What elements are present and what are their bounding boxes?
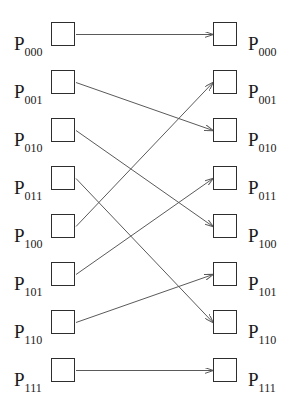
label-prefix: P xyxy=(14,81,25,102)
left-node-label-101: P101 xyxy=(14,274,43,293)
label-prefix: P xyxy=(248,33,259,54)
left-node-box-001 xyxy=(51,70,75,94)
label-subscript: 101 xyxy=(259,285,277,299)
right-node-box-100 xyxy=(213,214,237,238)
right-node-label-000: P000 xyxy=(248,34,277,53)
label-prefix: P xyxy=(248,225,259,246)
edge-010-to-100 xyxy=(76,131,213,227)
label-prefix: P xyxy=(248,81,259,102)
right-node-label-110: P110 xyxy=(248,322,276,341)
left-node-box-100 xyxy=(51,214,75,238)
label-subscript: 000 xyxy=(259,45,277,59)
left-node-label-111: P111 xyxy=(14,370,42,389)
edges-layer xyxy=(0,0,284,406)
label-prefix: P xyxy=(14,369,25,390)
label-prefix: P xyxy=(14,177,25,198)
label-subscript: 111 xyxy=(259,381,276,395)
left-node-label-001: P001 xyxy=(14,82,43,101)
right-node-label-100: P100 xyxy=(248,226,277,245)
left-node-label-011: P011 xyxy=(14,178,42,197)
label-prefix: P xyxy=(14,129,25,150)
edge-001-to-010 xyxy=(76,83,213,131)
left-node-label-000: P000 xyxy=(14,34,43,53)
label-subscript: 011 xyxy=(259,189,277,203)
label-subscript: 001 xyxy=(259,93,277,107)
left-node-box-101 xyxy=(51,262,75,286)
left-node-box-011 xyxy=(51,166,75,190)
shuffle-network-diagram: P000P001P010P011P100P101P110P111P000P001… xyxy=(0,0,284,406)
right-node-box-010 xyxy=(213,118,237,142)
label-subscript: 010 xyxy=(259,141,277,155)
label-prefix: P xyxy=(248,177,259,198)
right-node-box-011 xyxy=(213,166,237,190)
label-prefix: P xyxy=(248,321,259,342)
label-subscript: 001 xyxy=(25,93,43,107)
label-prefix: P xyxy=(14,33,25,54)
label-subscript: 100 xyxy=(259,237,277,251)
label-subscript: 010 xyxy=(25,141,43,155)
label-subscript: 000 xyxy=(25,45,43,59)
right-node-box-110 xyxy=(213,310,237,334)
label-subscript: 100 xyxy=(25,237,43,251)
edge-101-to-011 xyxy=(76,179,213,275)
right-node-label-001: P001 xyxy=(248,82,277,101)
right-node-label-111: P111 xyxy=(248,370,276,389)
left-node-box-110 xyxy=(51,310,75,334)
label-prefix: P xyxy=(248,129,259,150)
edge-100-to-001 xyxy=(76,83,213,227)
edge-110-to-101 xyxy=(76,275,213,323)
label-prefix: P xyxy=(14,225,25,246)
label-subscript: 110 xyxy=(25,333,43,347)
label-subscript: 111 xyxy=(25,381,42,395)
label-prefix: P xyxy=(14,321,25,342)
right-node-box-111 xyxy=(213,358,237,382)
label-subscript: 101 xyxy=(25,285,43,299)
right-node-box-101 xyxy=(213,262,237,286)
label-prefix: P xyxy=(248,273,259,294)
label-subscript: 011 xyxy=(25,189,43,203)
right-node-label-101: P101 xyxy=(248,274,277,293)
right-node-box-000 xyxy=(213,22,237,46)
left-node-box-000 xyxy=(51,22,75,46)
label-subscript: 110 xyxy=(259,333,277,347)
left-node-box-111 xyxy=(51,358,75,382)
label-prefix: P xyxy=(248,369,259,390)
left-node-label-100: P100 xyxy=(14,226,43,245)
left-node-label-110: P110 xyxy=(14,322,42,341)
right-node-box-001 xyxy=(213,70,237,94)
right-node-label-010: P010 xyxy=(248,130,277,149)
left-node-box-010 xyxy=(51,118,75,142)
edge-011-to-110 xyxy=(76,179,213,323)
left-node-label-010: P010 xyxy=(14,130,43,149)
edge-group xyxy=(76,35,213,371)
right-node-label-011: P011 xyxy=(248,178,276,197)
label-prefix: P xyxy=(14,273,25,294)
